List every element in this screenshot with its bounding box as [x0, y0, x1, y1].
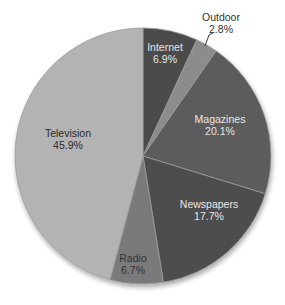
slice-label-radio: Radio6.7%	[119, 252, 147, 276]
pie-slices	[15, 28, 271, 284]
pie-chart: Internet6.9%Outdoor2.8%Magazines20.1%New…	[0, 0, 285, 305]
slice-label-outdoor: Outdoor2.8%	[202, 11, 240, 35]
